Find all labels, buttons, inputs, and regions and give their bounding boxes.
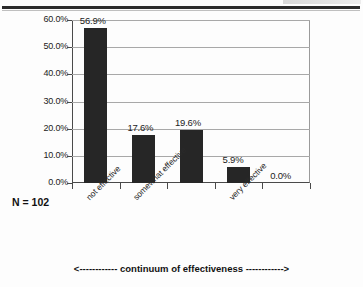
scan-artifact [283,0,361,4]
x-axis-tick-mark [215,183,216,189]
gridline [72,20,310,21]
bar-value-label: 56.9% [80,15,106,26]
y-axis-tick-label: 40.0% [22,68,68,78]
x-axis-tick-mark [262,183,263,189]
bar-value-label: 19.6% [175,117,201,128]
x-axis-tick-mark [310,183,311,189]
bar-chart-figure: 0.0%10.0%20.0%30.0%40.0%50.0%60.0% 56.9%… [0,0,363,287]
gridline [72,47,310,48]
sample-size-annotation: N = 102 [12,196,49,208]
bar-value-label: 17.6% [127,122,153,133]
y-axis-tick-label: 10.0% [22,150,68,160]
bar [84,28,107,183]
y-axis-tick-label: 30.0% [22,96,68,106]
page-separator-rule [2,6,360,9]
x-axis-tick-mark [167,183,168,189]
x-axis-tick-mark [120,183,121,189]
bar-value-label: 5.9% [223,154,244,165]
page-separator-rule-secondary [2,10,360,11]
gridline [72,102,310,103]
bar-value-label: 0.0% [270,170,291,181]
y-axis-tick-label: 60.0% [22,14,68,24]
y-axis-tick-label: 20.0% [22,123,68,133]
y-axis-tick-label: 0.0% [22,177,68,187]
continuum-caption: <------------ continuum of effectiveness… [0,263,363,274]
plot-area [72,20,310,183]
x-axis-tick-mark [72,183,73,189]
y-axis-tick-label: 50.0% [22,41,68,51]
gridline [72,74,310,75]
